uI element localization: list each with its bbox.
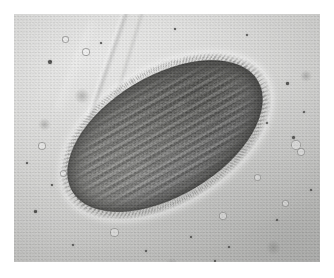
micrograph-figure — [0, 0, 334, 278]
field-vignette — [14, 14, 320, 262]
micrograph-plate — [14, 14, 320, 262]
